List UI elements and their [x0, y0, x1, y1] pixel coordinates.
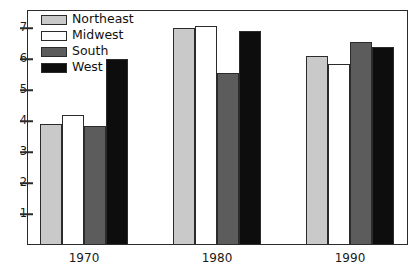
legend-swatch-icon: [41, 15, 67, 25]
bar-west-1980: [239, 31, 261, 245]
bar-south-1970: [84, 126, 106, 245]
y-tick-mark: [20, 182, 33, 184]
x-tick-label-1990: 1990: [335, 252, 366, 264]
legend-item-label: Midwest: [72, 29, 124, 42]
y-tick-mark: [20, 58, 33, 60]
bar-west-1990: [372, 47, 394, 245]
legend-item-northeast[interactable]: Northeast: [41, 12, 134, 27]
bar-midwest-1970: [62, 115, 84, 245]
x-tick-label-1970: 1970: [69, 252, 100, 264]
bar-midwest-1980: [195, 26, 217, 245]
legend-item-label: South: [72, 45, 108, 58]
y-tick-mark: [20, 27, 33, 29]
bar-northeast-1970: [40, 124, 62, 245]
bar-south-1990: [350, 42, 372, 245]
bar-northeast-1990: [306, 56, 328, 245]
legend-swatch-icon: [41, 63, 67, 73]
y-tick-mark: [20, 120, 33, 122]
legend-item-south[interactable]: South: [41, 44, 134, 59]
legend-swatch-icon: [41, 31, 67, 41]
chart-legend: NortheastMidwestSouthWest: [41, 12, 134, 75]
legend-item-midwest[interactable]: Midwest: [41, 28, 134, 43]
legend-item-label: Northeast: [72, 13, 134, 26]
legend-swatch-icon: [41, 47, 67, 57]
bar-northeast-1980: [173, 28, 195, 245]
x-tick-label-1980: 1980: [202, 252, 233, 264]
legend-item-label: West: [72, 61, 103, 74]
bar-west-1970: [106, 59, 128, 245]
y-tick-mark: [20, 89, 33, 91]
bar-chart-figure: 1234567 NortheastMidwestSouthWest 197019…: [0, 0, 420, 276]
bar-midwest-1990: [328, 64, 350, 245]
y-tick-mark: [20, 213, 33, 215]
y-tick-mark: [20, 151, 33, 153]
bar-south-1980: [217, 73, 239, 245]
legend-item-west[interactable]: West: [41, 60, 134, 75]
